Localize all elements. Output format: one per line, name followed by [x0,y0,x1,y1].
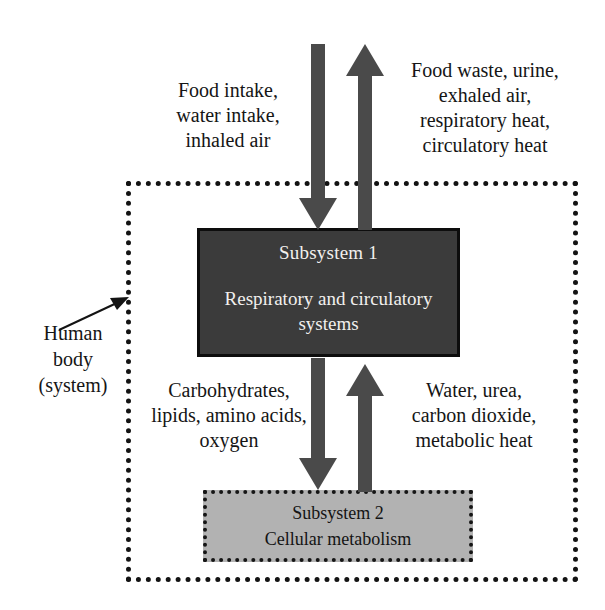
diagram-canvas: Food intake, water intake, inhaled air F… [0,0,605,610]
subsystem-1-title: Subsystem 1 [279,240,378,265]
arrow-nutrients-down-icon [298,358,340,492]
subsystem-2-box[interactable]: Subsystem 2 Cellular metabolism [203,490,473,562]
subsystem-1-box[interactable]: Subsystem 1 Respiratory and circulatory … [197,228,460,357]
label-inputs-bottom: Carbohydrates, lipids, amino acids, oxyg… [134,378,324,453]
label-outputs-bottom: Water, urea, carbon dioxide, metabolic h… [390,378,558,453]
arrow-byproducts-up-icon [344,364,386,492]
arrow-waste-up-icon [344,42,386,232]
subsystem-2-title: Subsystem 2 [292,501,384,525]
label-outputs-top: Food waste, urine, exhaled air, respirat… [392,58,578,158]
subsystem-2-body: Cellular metabolism [265,527,411,551]
arrow-intake-down-icon [298,42,340,232]
label-inputs-top: Food intake, water intake, inhaled air [142,78,314,153]
human-body-pointer-arrow-icon [55,288,145,336]
subsystem-1-body: Respiratory and circulatory systems [200,286,457,336]
